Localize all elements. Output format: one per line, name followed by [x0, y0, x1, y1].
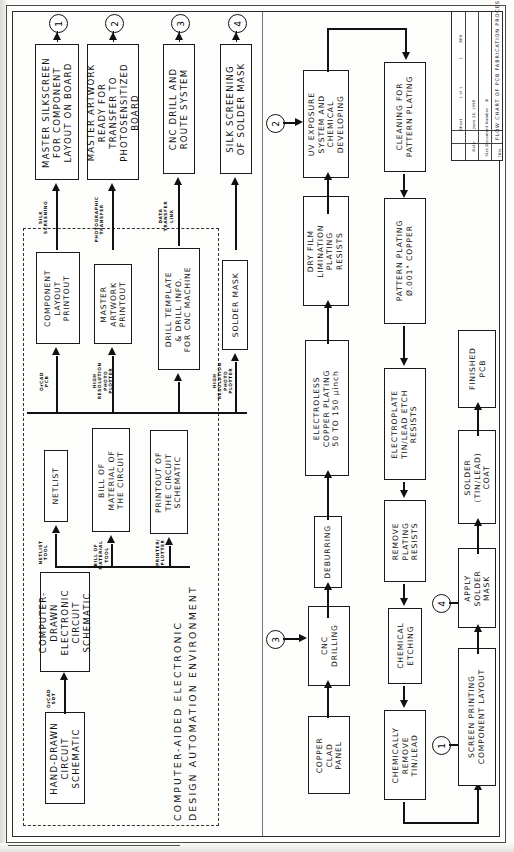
cad-caption-line2: DESIGN AUTOMATION ENVIRONMENT — [185, 571, 201, 821]
process-box-uv-exposure: UV EXPOSURE SYSTEM AND CHEMICAL DEVELOPI… — [303, 70, 349, 178]
process-box-chemical-etching: CHEMICAL ETCHING — [388, 608, 422, 684]
link-dryfilm-to-uv — [327, 180, 329, 214]
process-box-screen-printing-component-layout: SCREEN PRINTING COMPONENT LAYOUT — [458, 648, 496, 786]
process-box-apply-solder-mask-label: APPLY SOLDER MASK — [463, 570, 492, 606]
title-block-rev-label-text: REV — [459, 27, 464, 43]
drawing-sheet: COMPUTER-AIDED ELECTRONIC DESIGN AUTOMAT… — [0, 0, 514, 852]
arrow-bus-p2 — [108, 347, 116, 355]
arrow-electroless-to-dryfilm — [324, 300, 332, 308]
arrow-out4 — [232, 32, 240, 40]
arrow-panel-to-drilling — [324, 680, 332, 688]
design-output-box-schematic-printout-label: PRINTOUT OF THE CIRCUIT SCHEMATIC — [155, 451, 184, 512]
arrow-wrap-into-cleaning — [402, 52, 410, 60]
edge-label-bom-tool: BILL OF MATERIAL TOOL — [91, 534, 111, 574]
edge-label-orcad-pcb-text: OrCAD PCB — [39, 361, 50, 401]
arrow-ref3-to-drilling — [299, 634, 307, 642]
arrow-out3 — [175, 32, 183, 40]
process-box-electroplate-tin-lead-label: ELECTROPLATE TIN/LEAD ETCH RESISTS — [391, 389, 420, 458]
edge-label-netlist-tool: NETLIST TOOL — [33, 534, 53, 572]
output-box-master-silkscreen: MASTER SILKSCREEN FOR COMPONENT LAYOUT O… — [35, 44, 79, 180]
link-p1-out1 — [56, 190, 58, 250]
title-block-sheet-value-text: 1 of 1 — [459, 75, 464, 99]
process-box-solder-coat-label: SOLDER (TIN/LEAD) COAT — [463, 452, 492, 502]
wrap-bottom-riser-left — [403, 802, 405, 824]
bus-riser-p3 — [178, 382, 180, 414]
arrow-soldercoat-to-finished — [474, 402, 482, 410]
process-box-screen-printing-component-layout-label: SCREEN PRINTING COMPONENT LAYOUT — [467, 669, 486, 764]
title-block-doc-size-text: B — [485, 90, 490, 102]
output-box-silk-screening: SILK SCREENING OF SOLDER MASK — [220, 44, 252, 174]
output-box-cnc-drill-route: CNC DRILL AND ROUTE SYSTEM — [163, 44, 195, 174]
title-block-rev-label: REV — [457, 28, 466, 44]
link-p2-out2 — [112, 190, 114, 250]
arrow-cleaning-to-pattern — [400, 190, 408, 198]
source-box-computer-drawn-schematic: COMPUTER- DRAWN ELECTRONIC CIRCUIT SCHEM… — [40, 572, 90, 672]
connector-ref-2: 2 — [105, 14, 124, 33]
link-deburring-to-electroless — [327, 478, 329, 520]
bus-riser-p4 — [235, 362, 237, 414]
design-output-box-netlist-label: NETLIST — [51, 467, 61, 504]
printout-box-master-artwork-label: MASTER ARTWORK PRINTOUT — [99, 281, 128, 327]
bottom-rule — [8, 845, 180, 846]
wrap-uv-top — [327, 28, 329, 72]
panel-divider — [262, 12, 263, 836]
arrow-bus-netlist — [52, 525, 60, 533]
arrow-p3-out3 — [174, 177, 182, 185]
title-block-date-label-text: Date: — [472, 136, 477, 152]
arrow-bus-p3 — [174, 373, 182, 381]
title-block: FLOW CHART OF PCB FABRICATION PROCESS Ti… — [451, 11, 503, 161]
design-output-box-schematic-printout: PRINTOUT OF THE CIRCUIT SCHEMATIC — [150, 430, 188, 534]
arrow-p2-out2 — [108, 183, 116, 191]
edge-label-printer-plotter: PRINTER/ PLOTTER — [150, 534, 170, 572]
process-box-deburring-label: DEBURRING — [323, 525, 333, 579]
arrow-p1-out1 — [52, 183, 60, 191]
process-box-electroless-copper-plating-label: ELECTROLESS COPPER PLATING 50 TO 150 μin… — [313, 369, 342, 447]
printout-box-drill-template-label: DRILL TEMPLATE & DRILL INFO. FOR CNC MAC… — [165, 266, 194, 352]
title-block-title-label-text: Title — [498, 136, 503, 158]
wrap-bottom — [403, 822, 479, 824]
process-box-uv-exposure-label: UV EXPOSURE SYSTEM AND CHEMICAL DEVELOPI… — [307, 92, 345, 156]
process-box-cnc-drilling: CNC DRILLING — [308, 606, 350, 686]
process-box-finished-pcb: FINISHED PCB — [458, 330, 496, 408]
process-box-solder-coat: SOLDER (TIN/LEAD) COAT — [458, 430, 496, 524]
connector-ref-2-label: 2 — [109, 21, 119, 27]
edge-label-photo-plotter-1-text: HIGH RESOLUTION PHOTO PLOTTER — [92, 357, 114, 405]
arrow-deburring-to-electroless — [324, 470, 332, 478]
cad-caption-line1: COMPUTER-AIDED ELECTRONIC — [170, 571, 186, 821]
link-soldermask-to-soldercoat — [477, 526, 479, 554]
link-soldercoat-to-finished — [477, 410, 479, 436]
arrow-p4-out4 — [231, 177, 239, 185]
arrow-etching-to-chemremove — [400, 700, 408, 708]
bus-printouts — [27, 412, 247, 414]
design-output-box-bill-of-material-label: BILL OF MATERIAL OF THE CIRCUIT — [97, 450, 126, 510]
edge-label-photo-plotter-2: HIGH RESOLUTION PHOTO PLOTTER — [213, 356, 233, 404]
process-box-remove-plating-resists: REMOVE PLATING RESISTS — [384, 500, 426, 582]
output-box-master-artwork: MASTER ARTWORK READY FOR TRANSFER TO PHO… — [87, 44, 139, 180]
title-block-doc-size: B — [483, 90, 492, 102]
title-block-doc-label-text: Size Document Number — [485, 109, 490, 157]
edge-label-data-transfer-link-text: DATA TRANSFER LINK — [158, 194, 174, 238]
source-box-hand-drawn-schematic: HAND-DRAWN CIRCUIT SCHEMATIC — [45, 712, 85, 804]
connector-in-4-label: 4 — [436, 601, 446, 607]
process-box-deburring: DEBURRING — [314, 516, 342, 588]
printout-box-drill-template: DRILL TEMPLATE & DRILL INFO. FOR CNC MAC… — [158, 248, 200, 370]
edge-label-printer-plotter-text: PRINTER/ PLOTTER — [155, 533, 166, 571]
process-box-chemically-remove-tin-lead: CHEMICALLY REMOVE TIN/LEAD — [384, 710, 426, 800]
arrow-out2 — [109, 32, 117, 40]
arrow-soldermask-to-soldercoat — [474, 518, 482, 526]
edge-label-photographic-transfer-text: PHOTOGRAPHIC TRANSFER — [94, 195, 105, 243]
printout-box-component-layout: COMPONENT LAYOUT PRINTOUT — [36, 252, 80, 344]
edge-label-orcad-sdt: OrCAD SDT — [42, 682, 62, 716]
link-electroless-to-dryfilm — [327, 308, 329, 344]
printout-box-solder-mask: SOLDER MASK — [222, 260, 248, 350]
process-box-remove-plating-resists-label: REMOVE PLATING RESISTS — [391, 522, 420, 560]
process-box-pattern-plating: PATTERN PLATING Ø.001" COPPER — [384, 198, 426, 324]
link-pattern-to-electroplate — [403, 326, 405, 360]
edge-label-data-transfer-link: DATA TRANSFER LINK — [155, 192, 177, 236]
process-box-dry-film-lamination: DRY FILM LIMINATION PLATING RESISTS — [303, 196, 349, 306]
source-box-computer-drawn-schematic-label: COMPUTER- DRAWN ELECTRONIC CIRCUIT SCHEM… — [38, 589, 93, 655]
connector-ref-3-label: 3 — [175, 21, 185, 27]
edge-label-silk-screening: SILK SCREENING — [32, 196, 54, 240]
connector-ref-3: 3 — [171, 14, 190, 33]
link-panel-to-drilling — [327, 688, 329, 718]
